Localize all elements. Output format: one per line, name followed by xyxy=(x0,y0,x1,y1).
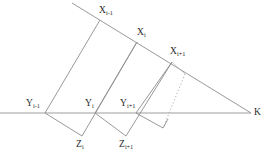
label-y-next: Yi+1 xyxy=(120,99,135,109)
label-y-prev-subscript: i-1 xyxy=(33,102,40,109)
edge-yprev-zcurr xyxy=(45,113,82,136)
label-x-prev: Xi-1 xyxy=(99,6,113,16)
label-k-axis: K xyxy=(254,108,261,118)
geometric-diagram-figure: Xi-1 Xi Xi+1 Yi-1 Yi Yi+1 Zi Zi+1 K xyxy=(0,0,272,159)
edge-ycurr-znext xyxy=(95,113,126,136)
edge-xnext-top-connector xyxy=(172,62,185,74)
edge-ynext-base-right xyxy=(136,113,163,128)
edge-base-right-up xyxy=(163,119,168,128)
label-x-next-subscript: i+1 xyxy=(177,50,185,57)
label-z-next: Zi+1 xyxy=(119,140,133,150)
label-x-curr: Xi xyxy=(137,28,146,38)
label-x-next: Xi+1 xyxy=(170,47,185,57)
oblique-ray-line xyxy=(72,3,251,113)
label-x-curr-subscript: i xyxy=(144,31,146,38)
label-y-curr-subscript: i xyxy=(92,102,94,109)
diagram-canvas xyxy=(0,0,272,159)
label-y-curr: Yi xyxy=(85,99,94,109)
label-z-curr-subscript: i xyxy=(82,143,84,150)
label-y-next-subscript: i+1 xyxy=(127,102,135,109)
label-z-curr: Zi xyxy=(76,140,84,150)
label-x-prev-subscript: i-1 xyxy=(106,9,113,16)
label-y-prev: Yi-1 xyxy=(26,99,40,109)
edge-xnext-ynext xyxy=(136,62,172,113)
dotted-edge-xnext-down xyxy=(163,74,185,128)
label-z-next-subscript: i+1 xyxy=(125,143,133,150)
